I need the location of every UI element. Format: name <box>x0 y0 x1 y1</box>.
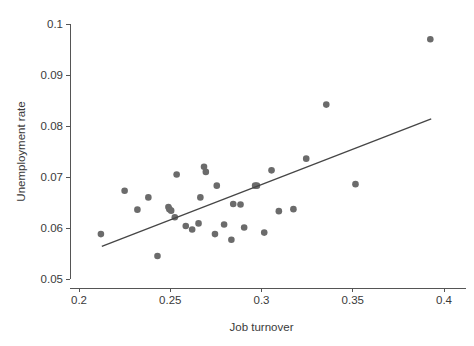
data-point <box>290 206 297 213</box>
y-axis-ticks: 0.050.060.070.080.090.1 <box>41 18 70 285</box>
scatter-plot-figure: 0.050.060.070.080.090.1 0.20.250.30.350.… <box>0 0 474 346</box>
x-tick-label: 0.2 <box>71 294 87 306</box>
data-point <box>241 224 248 231</box>
data-point <box>261 229 268 236</box>
data-point <box>182 223 189 230</box>
x-tick-label: 0.25 <box>159 294 181 306</box>
data-point <box>237 201 244 208</box>
data-point <box>145 194 152 201</box>
data-points <box>98 36 434 259</box>
y-tick-label: 0.07 <box>41 171 63 183</box>
data-point <box>173 171 180 178</box>
axes <box>70 24 466 288</box>
regression-line <box>102 119 431 247</box>
data-point <box>197 194 204 201</box>
y-tick-label: 0.05 <box>41 273 63 285</box>
data-point <box>203 169 210 176</box>
x-tick-label: 0.4 <box>436 294 453 306</box>
data-point <box>213 182 220 189</box>
y-axis-title: Unemployment rate <box>15 101 27 201</box>
y-tick-label: 0.08 <box>41 120 63 132</box>
data-point <box>268 167 275 174</box>
y-tick-label: 0.1 <box>47 18 63 30</box>
x-axis-ticks: 0.20.250.30.350.4 <box>71 288 453 306</box>
data-point <box>189 226 196 233</box>
x-tick-label: 0.3 <box>254 294 270 306</box>
data-point <box>121 187 128 194</box>
data-point <box>168 207 175 214</box>
data-point <box>154 253 161 260</box>
data-point <box>323 101 330 108</box>
data-point <box>303 155 310 162</box>
data-point <box>427 36 434 43</box>
data-point <box>276 208 283 215</box>
data-point <box>228 236 235 243</box>
data-point <box>230 201 237 208</box>
x-tick-label: 0.35 <box>342 294 364 306</box>
data-point <box>98 231 105 238</box>
x-axis-title: Job turnover <box>230 321 294 333</box>
data-point <box>195 220 202 227</box>
y-tick-label: 0.09 <box>41 69 63 81</box>
y-tick-label: 0.06 <box>41 222 63 234</box>
chart-canvas: 0.050.060.070.080.090.1 0.20.250.30.350.… <box>0 0 474 346</box>
data-point <box>352 181 359 188</box>
data-point <box>221 221 228 228</box>
data-point <box>212 231 219 238</box>
data-point <box>134 206 141 213</box>
